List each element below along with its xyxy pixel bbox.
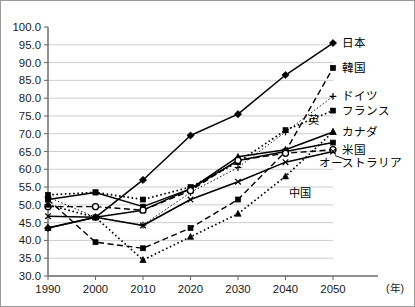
x-tick-label: 2020 xyxy=(178,283,203,295)
marker-韓国 xyxy=(188,225,193,230)
series-label-ドイツ: ドイツ xyxy=(342,89,378,103)
y-tick-label: 35.0 xyxy=(19,252,41,264)
series-label-オーストラリア: オーストラリア xyxy=(319,156,402,170)
marker-ドイツ xyxy=(330,93,337,100)
y-tick-label: 45.0 xyxy=(19,217,41,229)
marker-ドイツ xyxy=(235,164,242,171)
y-tick-label: 95.0 xyxy=(19,39,41,51)
series-label-日本: 日本 xyxy=(342,36,366,50)
marker-英 xyxy=(331,140,336,145)
series-line-米国 xyxy=(48,150,333,210)
marker-米国 xyxy=(140,207,146,213)
series-line-韓国 xyxy=(48,68,333,248)
marker-中国 xyxy=(187,233,193,239)
y-tick-label: 60.0 xyxy=(19,163,41,175)
y-tick-label: 65.0 xyxy=(19,146,41,158)
series-label-フランス: フランス xyxy=(342,104,390,118)
marker-フランス xyxy=(141,197,146,202)
y-tick-label: 70.0 xyxy=(19,128,41,140)
x-tick-label: 2040 xyxy=(273,283,298,295)
y-tick-label: 75.0 xyxy=(19,110,41,122)
marker-中国 xyxy=(235,210,241,216)
marker-韓国 xyxy=(141,246,146,251)
series-label-中国: 中国 xyxy=(289,187,311,200)
marker-米国 xyxy=(235,157,241,163)
series-label-米国: 米国 xyxy=(342,143,366,157)
marker-米国 xyxy=(283,150,289,156)
marker-フランス xyxy=(331,108,336,113)
y-tick-label: 90.0 xyxy=(19,57,41,69)
x-axis-unit-label: (年) xyxy=(386,282,404,294)
series-label-カナダ: カナダ xyxy=(342,125,378,139)
x-tick-label: 2050 xyxy=(320,283,345,295)
x-tick-label: 2000 xyxy=(83,283,108,295)
marker-フランス xyxy=(283,128,288,133)
x-axis-tick-labels: 1990200020102020203020402050 xyxy=(35,283,345,295)
marker-韓国 xyxy=(93,240,98,245)
chart-container: 100.095.090.085.080.075.070.065.060.055.… xyxy=(0,0,415,307)
marker-英 xyxy=(93,190,98,195)
y-tick-label: 85.0 xyxy=(19,74,41,86)
series-label-韓国: 韓国 xyxy=(342,61,366,75)
y-tick-label: 50.0 xyxy=(19,199,41,211)
y-tick-label: 55.0 xyxy=(19,181,41,193)
marker-フランス xyxy=(46,192,51,197)
y-tick-label: 80.0 xyxy=(19,92,41,104)
marker-米国 xyxy=(188,188,194,194)
y-tick-label: 40.0 xyxy=(19,234,41,246)
series-label-英: 英 xyxy=(308,113,319,127)
y-tick-label: 30.0 xyxy=(19,270,41,282)
x-tick-label: 2010 xyxy=(130,283,155,295)
marker-韓国 xyxy=(236,197,241,202)
data-markers-layer xyxy=(44,39,336,262)
series-line-カナダ xyxy=(48,132,333,228)
marker-中国 xyxy=(330,129,336,135)
x-tick-label: 2030 xyxy=(225,283,250,295)
marker-米国 xyxy=(93,204,99,210)
y-axis-tick-labels: 100.095.090.085.080.075.070.065.060.055.… xyxy=(12,21,41,282)
line-chart: 100.095.090.085.080.075.070.065.060.055.… xyxy=(1,1,415,307)
marker-韓国 xyxy=(331,65,336,70)
x-tick-label: 1990 xyxy=(35,283,60,295)
y-tick-label: 100.0 xyxy=(12,21,41,33)
